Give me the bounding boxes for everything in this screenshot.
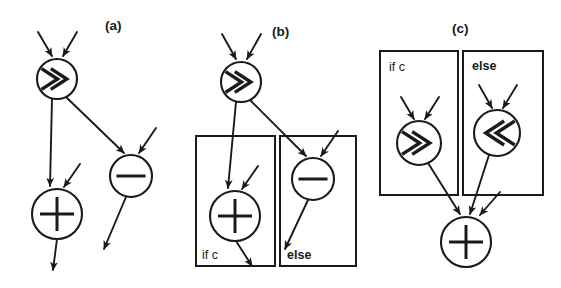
region-label-b-if: if c [202, 248, 218, 262]
edge-b-sub-out [285, 200, 308, 249]
operator-node-a-shr [37, 59, 77, 99]
edge-a-shr-to-add [50, 99, 52, 186]
operator-node-c-shr [397, 121, 441, 165]
edge-b-in-sub-right [321, 131, 338, 156]
operator-node-a-add [32, 189, 82, 239]
operator-node-a-sub [110, 155, 152, 197]
edge-a-shr-to-sub [66, 97, 124, 153]
dataflow-diagram: if celseif celse(a)(b)(c) [0, 0, 561, 288]
edge-a-in-add-right [64, 164, 80, 187]
edge-b-in-shr-left [222, 34, 236, 59]
region-label-b-else: else [287, 248, 311, 262]
edge-a-in-shr-left [38, 32, 52, 56]
operator-node-b-shr [221, 62, 261, 102]
region-label-c-if: if c [389, 60, 405, 74]
edge-a-in-sub-right [139, 128, 156, 153]
region-box-b-else [280, 136, 356, 266]
edge-b-shr-to-add [228, 102, 236, 188]
edge-a-in-shr-right [63, 32, 77, 56]
edge-c-in-shl-left [479, 85, 492, 108]
edge-c-in-shr-right [425, 97, 439, 119]
edge-c-in-shr-left [401, 97, 414, 119]
edge-a-add-out [53, 239, 57, 270]
operator-node-c-shl [474, 110, 520, 156]
edge-b-shr-to-sub [250, 100, 306, 156]
edge-b-in-add-right [242, 166, 258, 189]
edge-c-shr-to-add [428, 163, 460, 214]
edge-b-in-shr-right [247, 34, 261, 59]
panel-label-b: (b) [272, 24, 289, 39]
edge-c-shl-to-add [470, 155, 489, 214]
operator-node-b-add [210, 191, 260, 241]
operator-node-b-sub [292, 158, 334, 200]
operator-node-c-add [441, 217, 491, 267]
edge-a-sub-out [104, 197, 126, 249]
edge-c-in-shl-right [503, 85, 517, 108]
panel-label-a: (a) [105, 18, 122, 33]
region-label-c-else: else [472, 59, 496, 73]
edge-b-add-out [236, 241, 252, 266]
figure-root: if celseif celse(a)(b)(c) [0, 0, 561, 288]
panel-label-c: (c) [452, 21, 469, 36]
